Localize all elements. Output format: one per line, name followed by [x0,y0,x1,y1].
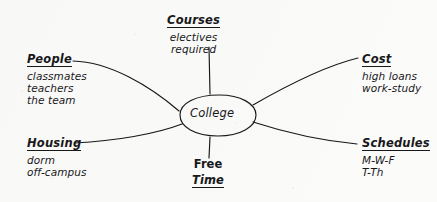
branch-people-title: People [27,53,72,67]
branch-housing-detail: off-campus [27,167,87,178]
connector-housing [75,124,182,143]
branch-free-time-title-line2: Time [192,174,224,188]
branch-people-detail: classmates [27,71,87,82]
branch-courses-detail: required [167,44,220,55]
branch-schedules-detail: T-Th [362,167,430,178]
branch-cost[interactable]: Cost high loans work-study [362,50,421,94]
branch-housing-title: Housing [27,137,81,151]
branch-courses[interactable]: Courses electives required [167,11,220,55]
connector-schedules [253,122,357,144]
branch-free-time[interactable]: Free Time [192,158,224,188]
branch-courses-title: Courses [167,14,220,28]
branch-cost-detail: work-study [362,83,421,94]
connector-cost [253,58,358,105]
branch-free-time-title-line1: Free [192,158,224,170]
branch-courses-detail: electives [167,32,220,43]
branch-schedules-title: Schedules [362,137,430,151]
branch-people-detail: teachers [27,83,87,94]
branch-cost-detail: high loans [362,71,421,82]
connector-people [73,61,179,111]
branch-housing[interactable]: Housing dorm off-campus [27,134,87,178]
center-node-label: College [190,106,234,120]
mindmap-canvas: College People classmates teachers the t… [0,0,437,202]
branch-housing-detail: dorm [27,155,87,166]
branch-schedules[interactable]: Schedules M-W-F T-Th [362,134,430,178]
branch-schedules-detail: M-W-F [362,155,430,166]
branch-people[interactable]: People classmates teachers the team [27,50,87,106]
branch-cost-title: Cost [362,53,391,67]
branch-people-detail: the team [27,95,87,106]
connector-free-time [209,137,210,158]
